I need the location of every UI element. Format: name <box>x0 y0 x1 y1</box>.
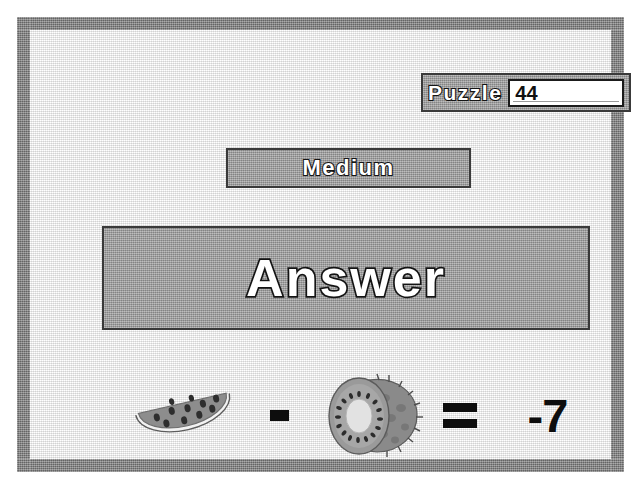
outer-frame-border: Puzzle 44 Medium Answer <box>17 17 624 472</box>
answer-banner: Answer <box>102 226 590 330</box>
minus-sign-icon <box>270 410 289 421</box>
equation-equals-operator <box>430 360 490 470</box>
difficulty-label: Medium <box>302 155 394 181</box>
equation-right-operand[interactable] <box>310 360 440 470</box>
equation-result-value: -7 <box>528 392 568 439</box>
equation-left-operand[interactable] <box>120 360 250 470</box>
equals-bar-bottom <box>443 419 477 428</box>
puzzle-app-window: Puzzle 44 Medium Answer <box>0 0 641 499</box>
puzzle-content-area: Puzzle 44 Medium Answer <box>60 60 641 489</box>
equals-bar-top <box>443 403 477 412</box>
watermelon-slice-icon <box>129 378 241 452</box>
equation-row: -7 <box>100 360 600 470</box>
equation-result: -7 <box>495 360 600 470</box>
kiwi-fruit-icon <box>323 372 427 458</box>
puzzle-label: Puzzle <box>428 81 502 105</box>
answer-title: Answer <box>246 248 446 308</box>
puzzle-number-panel: Puzzle 44 <box>421 73 631 112</box>
puzzle-number-input[interactable]: 44 <box>508 79 624 107</box>
difficulty-panel[interactable]: Medium <box>226 148 471 188</box>
equation-minus-operator <box>252 360 306 470</box>
puzzle-number-value: 44 <box>515 83 537 103</box>
equals-sign-icon <box>443 403 477 428</box>
